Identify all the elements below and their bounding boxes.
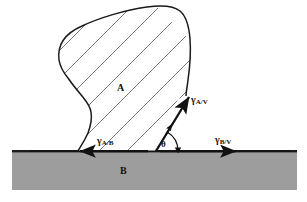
- figure-canvas: [0, 0, 307, 202]
- gamma-bv-subscript: B/V: [220, 138, 232, 146]
- gamma-ab-label: γA/B: [97, 136, 113, 146]
- gamma-bv-label: γB/V: [215, 135, 231, 145]
- gamma-bv-symbol: γ: [215, 134, 220, 145]
- substrate-phase-label: B: [120, 166, 127, 176]
- gamma-ab-symbol: γ: [97, 135, 102, 146]
- drop-phase-label: A: [117, 83, 124, 93]
- gamma-av-symbol: γ: [191, 94, 196, 105]
- gamma-ab-subscript: A/B: [102, 139, 114, 147]
- gamma-av-subscript: A/V: [196, 98, 208, 106]
- contact-angle-label: θ: [161, 140, 166, 149]
- substrate-block: [12, 150, 297, 190]
- gamma-av-label: γA/V: [191, 95, 208, 105]
- contact-angle-figure: A B γA/V γA/B γB/V θ: [0, 0, 307, 202]
